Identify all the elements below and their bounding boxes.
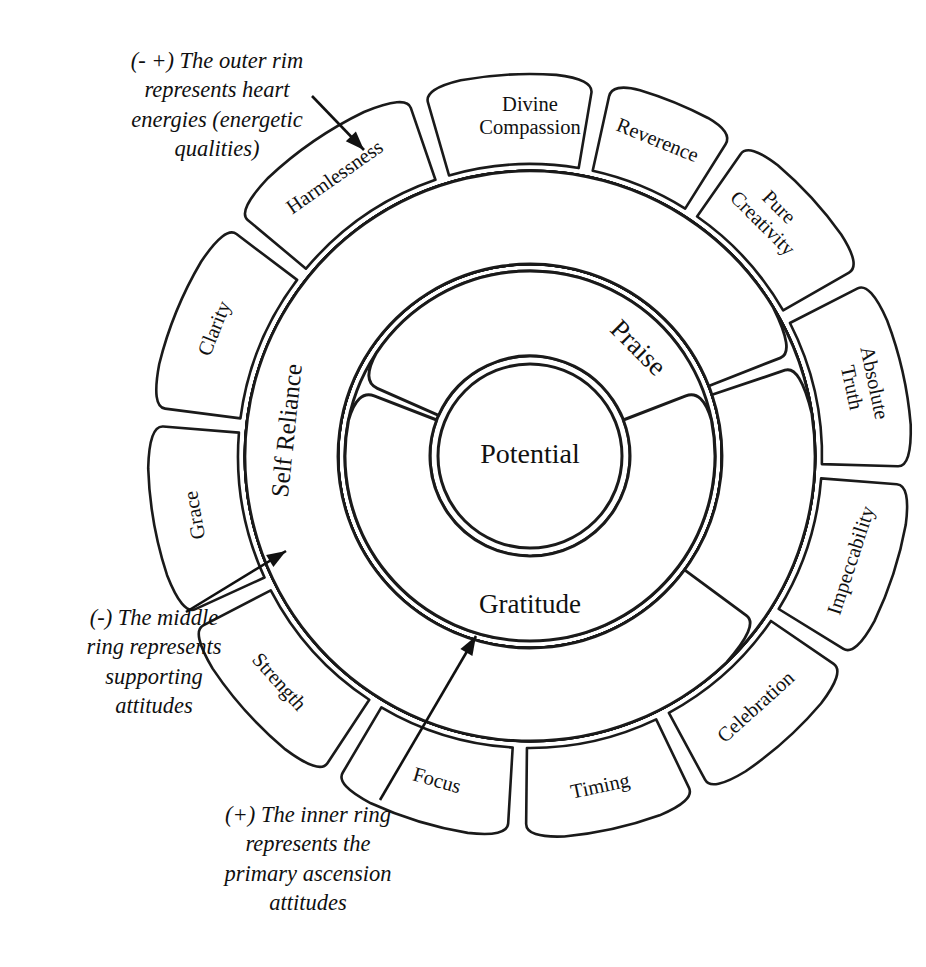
core-group: Potential bbox=[438, 364, 622, 548]
annotation-outer-rim: (- +) The outer rim represents heart ene… bbox=[92, 46, 342, 163]
petal-label-gratitude: Gratitude bbox=[479, 589, 581, 619]
annotation-inner-ring: (+) The inner ring represents the primar… bbox=[168, 800, 448, 917]
core-label: Potential bbox=[480, 438, 580, 469]
diagram-canvas: DivineCompassionHarmlessnessClarityGrace… bbox=[0, 0, 926, 967]
annotation-middle-ring: (-) The middle ring represents supportin… bbox=[54, 603, 254, 720]
